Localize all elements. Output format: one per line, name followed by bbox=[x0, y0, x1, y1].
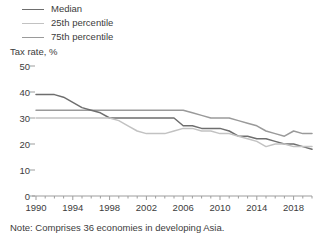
y-tick-label: 30 bbox=[8, 113, 30, 124]
y-tick-label: 0 bbox=[8, 191, 30, 202]
x-tick-label: 2006 bbox=[166, 202, 200, 213]
chart-note: Note: Comprises 36 economies in developi… bbox=[10, 222, 224, 233]
x-tick-label: 1998 bbox=[93, 202, 127, 213]
y-tick-label: 10 bbox=[8, 165, 30, 176]
x-tick-label: 1994 bbox=[56, 202, 90, 213]
figure: Median 25th percentile 75th percentile T… bbox=[0, 0, 335, 239]
y-tick-label: 40 bbox=[8, 87, 30, 98]
x-tick-label: 1990 bbox=[19, 202, 53, 213]
x-tick-label: 2002 bbox=[129, 202, 163, 213]
x-tick-label: 2010 bbox=[203, 202, 237, 213]
y-tick-label: 20 bbox=[8, 139, 30, 150]
x-tick-label: 2014 bbox=[240, 202, 274, 213]
y-tick-label: 50 bbox=[8, 61, 30, 72]
series-line-median bbox=[36, 95, 312, 150]
x-tick-label: 2018 bbox=[277, 202, 311, 213]
series-line-75th-percentile bbox=[36, 110, 312, 136]
